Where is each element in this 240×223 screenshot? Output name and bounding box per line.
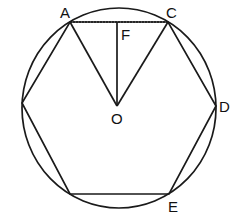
hexagon-diagram: A C F O D E [0, 0, 240, 223]
label-o: O [111, 110, 123, 127]
label-f: F [121, 26, 130, 43]
label-c: C [166, 4, 177, 21]
label-a: A [60, 4, 70, 21]
label-e: E [168, 198, 178, 215]
radius-oa [70, 22, 117, 106]
hexagon [22, 22, 216, 194]
circumcircle [22, 8, 216, 208]
label-d: D [219, 98, 230, 115]
